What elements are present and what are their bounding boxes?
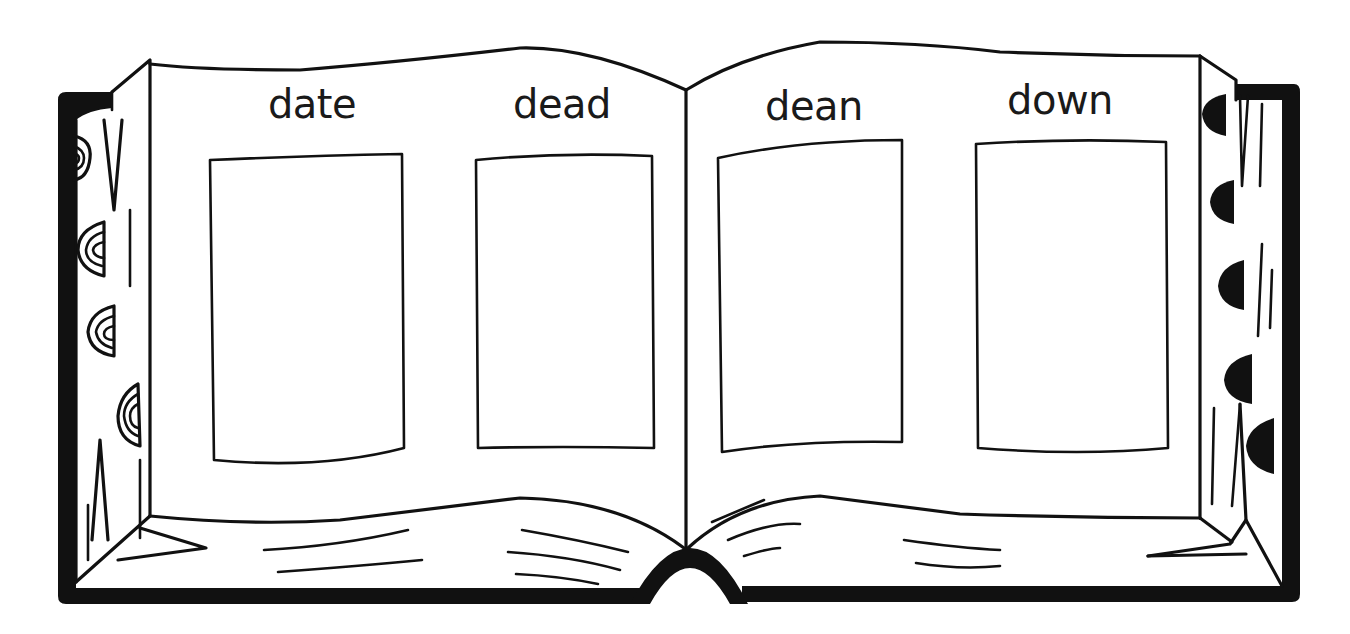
thumb-tab-icon: [1218, 260, 1244, 310]
word-label-down: down: [960, 80, 1160, 120]
thumb-tab-icon: [1202, 94, 1226, 136]
word-label-dead: dead: [462, 84, 662, 124]
thumb-tab-icon: [1246, 418, 1274, 474]
thumb-tab-icon: [1210, 180, 1234, 224]
left-page-edges: [76, 60, 206, 582]
picture-box-dean: [718, 140, 902, 452]
picture-boxes: [210, 140, 1168, 463]
thumb-tab-icon: [78, 222, 104, 276]
thumb-tab-icon: [118, 384, 140, 446]
book-cover: [58, 84, 1300, 604]
picture-box-date: [210, 154, 404, 463]
picture-box-down: [976, 140, 1168, 452]
word-label-date: date: [212, 84, 412, 124]
thumb-tab-icon: [88, 306, 114, 356]
picture-box-dead: [476, 155, 654, 448]
left-index-tabs: [74, 136, 140, 446]
word-label-dean: dean: [714, 86, 914, 126]
left-page: [150, 48, 686, 584]
thumb-tab-icon: [1224, 354, 1252, 404]
